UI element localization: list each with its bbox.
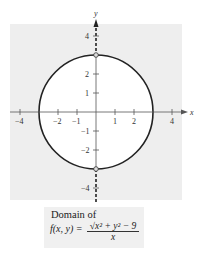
caption-denominator: x [87, 232, 139, 242]
x-tick-label: 2 [132, 117, 136, 126]
caption-numerator: √x² + y² − 9 [87, 221, 139, 232]
y-tick-label: 4 [85, 32, 89, 41]
caption-title: Domain of [51, 209, 96, 220]
y-axis-arrow-icon [94, 19, 99, 27]
caption-fraction: √x² + y² − 9 x [87, 221, 139, 242]
y-tick-label: 1 [85, 89, 89, 98]
caption-function-lhs: f(x, y) = [50, 223, 83, 234]
x-tick-label: 4 [170, 117, 174, 126]
x-tick-label: −2 [53, 117, 62, 126]
y-tick-label: −4 [81, 184, 90, 193]
domain-graph: y x −4 −2 −1 1 2 4 4 2 1 −1 −2 −4 [0, 0, 208, 205]
y-tick-label: 2 [85, 70, 89, 79]
figure-caption: Domain of f(x, y) = √x² + y² − 9 x [44, 207, 144, 248]
x-axis-label: x [189, 108, 194, 117]
open-point-bottom [94, 167, 99, 172]
x-tick-label: −4 [15, 117, 24, 126]
y-tick-label: −1 [81, 127, 90, 136]
open-point-top [94, 53, 99, 58]
x-tick-label: −1 [72, 117, 81, 126]
x-axis-arrow-icon [181, 110, 188, 115]
y-axis-label: y [93, 9, 98, 18]
x-tick-label: 1 [113, 117, 117, 126]
y-tick-label: −2 [81, 146, 90, 155]
